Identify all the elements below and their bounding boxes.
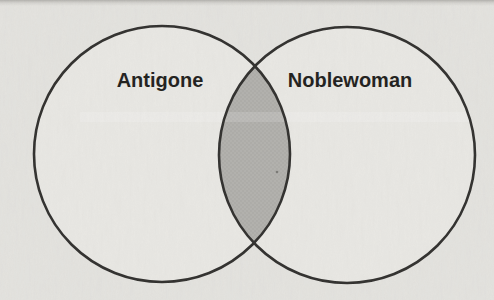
venn-diagram: Antigone Noblewoman: [0, 0, 494, 300]
scanned-page: Antigone Noblewoman: [0, 0, 494, 300]
paper-streak-texture: [0, 0, 494, 300]
